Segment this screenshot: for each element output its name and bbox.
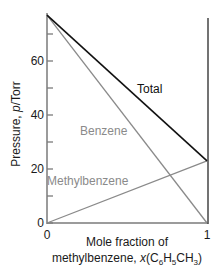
series-lines (47, 15, 207, 223)
y-tick-label: 20 (31, 162, 45, 176)
series-line-total (47, 15, 207, 161)
y-ticks: 0204060 (31, 34, 53, 230)
y-tick-label: 60 (31, 54, 45, 68)
x-axis-title-line2: methylbenzene, x(C6H5CH3) (52, 251, 202, 267)
y-axis-title: Pressure, p/Torr (9, 81, 23, 166)
x-axis-title-line1: Mole fraction of (86, 235, 169, 249)
series-label-methylbenzene: Methylbenzene (47, 174, 129, 188)
series-label-benzene: Benzene (80, 124, 128, 138)
vapor-pressure-chart: 0204060 01 TotalBenzeneMethylbenzene Pre… (0, 0, 215, 268)
x-tick-label: 0 (44, 228, 51, 242)
y-tick-label: 40 (31, 108, 45, 122)
series-label-total: Total (137, 82, 162, 96)
x-tick-label: 1 (204, 228, 211, 242)
series-labels: TotalBenzeneMethylbenzene (47, 82, 162, 188)
